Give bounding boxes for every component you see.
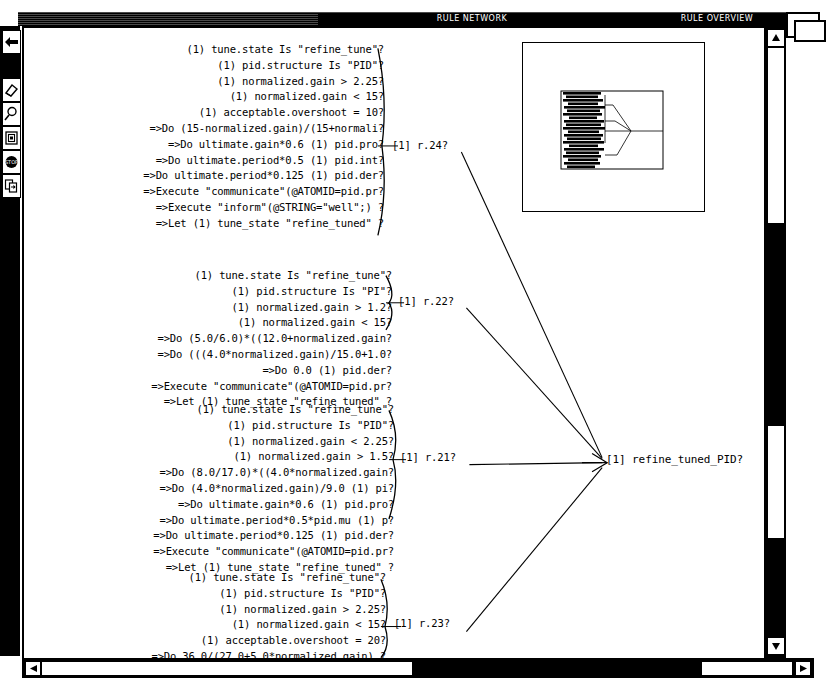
rule-line: =>Do ultimate.period*0.5*pid.mu (1) p? (34, 513, 394, 529)
rule-node-r21[interactable]: [1] r.21? (400, 450, 456, 464)
rule-line: (1) tune.state Is "refine_tune"? (34, 570, 386, 586)
rule-line: (1) normalized.gain > 1.2? (34, 300, 392, 316)
rule-line: =>Do ultimate.gain*0.6 (1) pid.pro? (34, 497, 394, 513)
horizontal-scrollbar[interactable] (22, 658, 814, 678)
document-icon[interactable] (2, 126, 21, 150)
overview-thumbnail (523, 43, 704, 211)
rule-block[interactable]: (1) tune.state Is "refine_tune"?(1) pid.… (34, 42, 384, 232)
rule-line: =>Do 0.0 (1) pid.der? (34, 363, 392, 379)
rule-line: =>Execute "communicate"(@ATOMID=pid.pr? (34, 544, 394, 560)
rule-line: (1) tune.state Is "refine_tune"? (34, 402, 394, 418)
eraser-icon[interactable] (2, 78, 21, 102)
rule-line: =>Do (((4.0*normalized.gain)/15.0+1.0? (34, 347, 392, 363)
rule-line: (1) normalized.gain > 2.25? (34, 74, 384, 90)
rule-network-canvas[interactable]: (1) tune.state Is "refine_tune"?(1) pid.… (22, 26, 765, 660)
rule-line: (1) normalized.gain < 15? (34, 617, 386, 633)
rule-overview-panel[interactable] (522, 42, 705, 212)
window-titlebar: RULE NETWORK RULE OVERVIEW (18, 12, 818, 26)
window-resize-corner-shadow (794, 20, 826, 42)
rule-line: =>Let (1) tune_state "refine_tuned" ? (34, 216, 384, 232)
rule-line: (1) normalized.gain > 2.25? (34, 602, 386, 618)
rule-node-r24[interactable]: [1] r.24? (392, 138, 448, 152)
rule-line: =>Execute "inform"(@STRING="well";) ? (34, 200, 384, 216)
toolbar-filler (2, 198, 19, 656)
scroll-up-button[interactable] (767, 29, 785, 47)
rule-line: =>Do (5.0/6.0)*((12.0+normalized.gain? (34, 331, 392, 347)
rule-line: (1) normalized.gain < 15? (34, 315, 392, 331)
rule-line: =>Execute "communicate"(@ATOMID=pid.pr? (34, 184, 384, 200)
stop-icon[interactable]: STOP (2, 150, 21, 174)
back-arrow-icon[interactable] (2, 30, 21, 54)
rule-block[interactable]: (1) tune.state Is "refine_tune"?(1) pid.… (34, 268, 392, 410)
rule-line: (1) normalized.gain < 15? (34, 89, 384, 105)
rule-line: =>Execute "communicate"(@ATOMID=pid.pr? (34, 379, 392, 395)
rule-line: =>Do ultimate.gain*0.6 (1) pid.pro? (34, 137, 384, 153)
scroll-right-button[interactable] (795, 661, 811, 676)
rule-line: (1) pid.structure Is "PID"? (34, 58, 384, 74)
svg-text:STOP: STOP (5, 159, 18, 165)
rule-line: (1) pid.structure Is "PID"? (34, 418, 394, 434)
copy-page-icon[interactable] (2, 174, 21, 198)
application-window: RULE NETWORK RULE OVERVIEW (0, 12, 836, 678)
rule-block[interactable]: (1) tune.state Is "refine_tune"?(1) pid.… (34, 570, 386, 660)
vertical-scroll-thumb-lower[interactable] (767, 425, 785, 539)
output-node-refine-tuned-pid[interactable]: [1] refine_tuned_PID? (606, 453, 743, 467)
rule-line: (1) tune.state Is "refine_tune"? (34, 42, 384, 58)
toolbar-spacer (2, 54, 21, 78)
panel-title-rule-network: RULE NETWORK (318, 13, 626, 25)
rule-line: (1) pid.structure Is "PID"? (34, 586, 386, 602)
left-toolbar: STOP (0, 26, 20, 656)
scroll-left-button[interactable] (25, 661, 41, 676)
magnifier-icon[interactable] (2, 102, 21, 126)
rule-line: (1) normalized.gain > 1.5? (34, 449, 394, 465)
vertical-scroll-thumb[interactable] (767, 47, 785, 224)
rule-line: (1) tune.state Is "refine_tune"? (34, 268, 392, 284)
vertical-scrollbar[interactable] (764, 26, 786, 658)
rule-line: =>Do ultimate.period*0.125 (1) pid.der? (34, 528, 394, 544)
rule-line: (1) normalized.gain < 2.25? (34, 434, 394, 450)
rule-line: =>Do ultimate.period*0.125 (1) pid.der? (34, 168, 384, 184)
horizontal-scroll-thumb-right[interactable] (701, 661, 793, 676)
rule-line: =>Do ultimate.period*0.5 (1) pid.int? (34, 153, 384, 169)
rule-block[interactable]: (1) tune.state Is "refine_tune"?(1) pid.… (34, 402, 394, 576)
rule-line: (1) pid.structure Is "PI"? (34, 284, 392, 300)
rule-node-r23[interactable]: [1] r.23? (394, 616, 450, 630)
horizontal-scroll-thumb[interactable] (41, 661, 413, 676)
scroll-down-button[interactable] (767, 637, 785, 655)
rule-line: =>Do (15-normalized.gain)/(15+normali? (34, 121, 384, 137)
rule-node-r22[interactable]: [1] r.22? (398, 294, 454, 308)
rule-line: =>Do (4.0*normalized.gain)/9.0 (1) pi? (34, 481, 394, 497)
rule-line: (1) acceptable.overshoot = 20? (34, 633, 386, 649)
rule-line: =>Do (8.0/17.0)*((4.0*normalized.gain? (34, 465, 394, 481)
rule-line: (1) acceptable.overshoot = 10? (34, 105, 384, 121)
